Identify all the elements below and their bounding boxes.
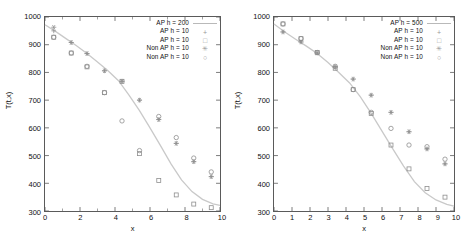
y-tick-label: 500: [28, 153, 41, 161]
x-tick-label: 8: [185, 214, 189, 222]
y-tick-label: 1000: [253, 13, 270, 21]
y-tick-label: 700: [28, 97, 41, 105]
x-tick-label: 0: [43, 214, 47, 222]
legend-label: AP h = 10: [394, 36, 427, 44]
y-tick-label: 800: [257, 69, 270, 77]
legend-entry: Non AP h = 10○: [146, 53, 217, 61]
x-tick-label: 6: [149, 214, 153, 222]
legend-label: AP h = 10: [394, 27, 427, 35]
x-tick-label: 7: [399, 214, 403, 222]
y-tick-label: 800: [28, 69, 41, 77]
legend-entry: AP h = 10+: [146, 27, 217, 35]
x-tick-label: 3: [327, 214, 331, 222]
x-tick-label: 10: [452, 214, 460, 222]
legend-label: AP h = 10: [160, 27, 193, 35]
y-tick-label: 300: [257, 209, 270, 217]
legend-label: Non AP h = 10: [146, 53, 193, 61]
legend-label: Non AP h = 10: [146, 44, 193, 52]
y-tick-label: 900: [257, 41, 270, 49]
legend-marker-plus-icon: +: [427, 27, 451, 35]
y-axis-label-right: T(t,x): [233, 71, 242, 131]
y-tick-label: 600: [28, 125, 41, 133]
x-tick-label: 10: [218, 214, 226, 222]
y-tick-label: 500: [257, 153, 270, 161]
legend-label: Non AP h = 10: [380, 44, 427, 52]
x-tick-label: 9: [436, 214, 440, 222]
y-tick-label: 600: [257, 125, 270, 133]
figure-canvas: T(t,x) 3004005006007008009001000 0246810…: [0, 0, 462, 247]
legend-right: AP h = 500AP h = 10+AP h = 10□Non AP h =…: [380, 19, 451, 61]
legend-entry: Non AP h = 10✳: [380, 44, 451, 52]
chart-panel-right: T(t,x) 3004005006007008009001000 0123456…: [231, 0, 462, 247]
y-tick-label: 1000: [24, 13, 41, 21]
x-tick-label: 1: [290, 214, 294, 222]
y-tick-label: 400: [28, 181, 41, 189]
legend-entry: Non AP h = 10✳: [146, 44, 217, 52]
y-tick-label: 700: [257, 97, 270, 105]
x-tick-label: 5: [363, 214, 367, 222]
legend-entry: AP h = 500: [380, 19, 451, 27]
chart-panel-left: T(t,x) 3004005006007008009001000 0246810…: [0, 0, 231, 247]
legend-marker-circle-icon: ○: [193, 53, 217, 61]
legend-label: AP h = 500: [390, 19, 427, 27]
legend-left: AP h = 200AP h = 10+AP h = 10□Non AP h =…: [146, 19, 217, 61]
legend-label: AP h = 200: [156, 19, 193, 27]
x-tick-label: 6: [381, 214, 385, 222]
legend-marker-circle-icon: ○: [427, 53, 451, 61]
plot-area-left: 3004005006007008009001000 0246810 x AP h…: [44, 16, 221, 212]
x-tick-label: 0: [272, 214, 276, 222]
legend-entry: Non AP h = 10○: [380, 53, 451, 61]
x-tick-label: 4: [114, 214, 118, 222]
legend-entry: AP h = 200: [146, 19, 217, 27]
legend-marker-line-icon: [427, 19, 451, 27]
x-tick-label: 8: [418, 214, 422, 222]
x-tick-label: 4: [345, 214, 349, 222]
legend-entry: AP h = 10□: [146, 36, 217, 44]
legend-marker-star-icon: ✳: [193, 44, 217, 52]
legend-marker-line-icon: [193, 19, 217, 27]
legend-marker-plus-icon: +: [193, 27, 217, 35]
x-axis-label-right: x: [362, 224, 366, 233]
legend-entry: AP h = 10□: [380, 36, 451, 44]
x-tick-label: 2: [308, 214, 312, 222]
y-axis-label-left: T(t,x): [4, 71, 13, 131]
plot-area-right: 3004005006007008009001000 012345678910 x…: [273, 16, 455, 212]
y-tick-label: 900: [28, 41, 41, 49]
legend-entry: AP h = 10+: [380, 27, 451, 35]
legend-marker-square-icon: □: [427, 36, 451, 44]
legend-marker-square-icon: □: [193, 36, 217, 44]
y-tick-label: 300: [28, 209, 41, 217]
legend-marker-star-icon: ✳: [427, 44, 451, 52]
y-tick-label: 400: [257, 181, 270, 189]
x-tick-label: 2: [78, 214, 82, 222]
legend-label: Non AP h = 10: [380, 53, 427, 61]
legend-label: AP h = 10: [160, 36, 193, 44]
x-axis-label-left: x: [131, 224, 135, 233]
